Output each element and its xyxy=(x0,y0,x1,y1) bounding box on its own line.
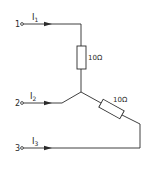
resistor-2-value: 10Ω xyxy=(113,96,128,104)
resistor-2-wire xyxy=(81,92,140,148)
terminal-3-label: 3 xyxy=(15,144,20,153)
terminal-1-label: 1 xyxy=(15,20,20,29)
terminal-1-wire xyxy=(23,24,81,92)
terminal-1-node xyxy=(21,23,24,26)
resistor-1 xyxy=(77,46,86,69)
current-arrow-2-icon xyxy=(44,101,52,105)
resistor-1-value: 10Ω xyxy=(88,54,103,62)
current-arrow-3-icon xyxy=(44,146,52,150)
current-1-label: I1 xyxy=(32,12,39,23)
terminal-2-node xyxy=(21,102,24,105)
circuit-diagram: 1 2 3 I1 I2 I3 10Ω 10Ω xyxy=(0,0,146,174)
terminal-2-label: 2 xyxy=(15,99,20,108)
terminal-3-node xyxy=(21,147,24,150)
current-3-label: I3 xyxy=(32,136,39,147)
current-2-label: I2 xyxy=(30,91,37,102)
current-arrow-1-icon xyxy=(44,22,52,26)
